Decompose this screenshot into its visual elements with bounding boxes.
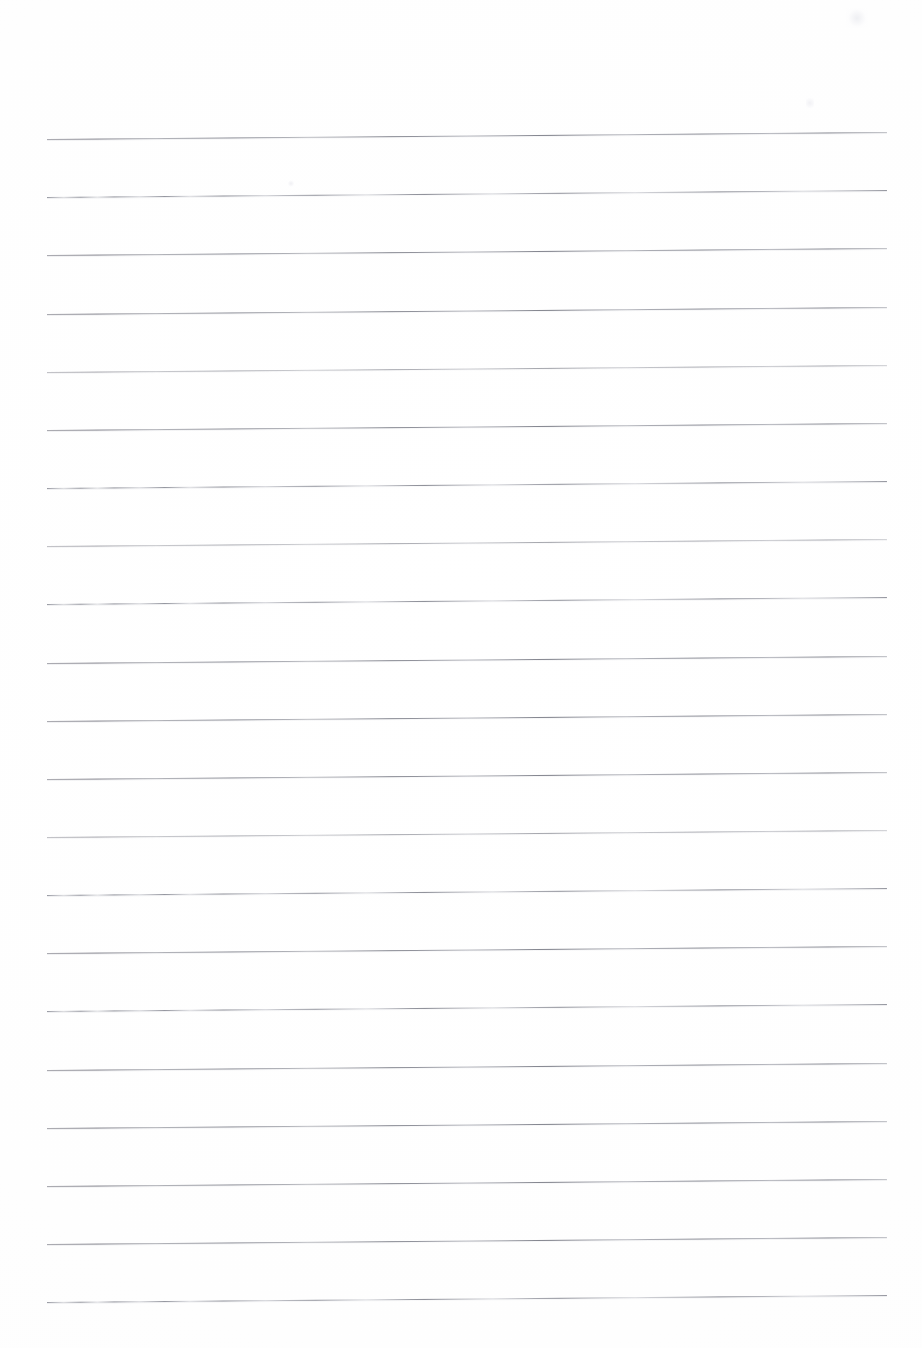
rule-line xyxy=(47,1179,887,1187)
rule-line xyxy=(47,132,887,140)
rule-line xyxy=(47,1295,887,1303)
rule-line xyxy=(47,423,887,431)
rule-line xyxy=(47,656,887,664)
ruled-lines-group xyxy=(0,0,922,1348)
rule-line xyxy=(47,597,887,605)
rule-line xyxy=(47,888,887,896)
rule-line xyxy=(47,539,887,547)
rule-line xyxy=(47,248,887,256)
rule-line xyxy=(47,1063,887,1071)
rule-line xyxy=(47,365,887,373)
rule-line xyxy=(47,1004,887,1012)
rule-line xyxy=(47,1121,887,1129)
rule-line xyxy=(47,481,887,489)
rule-line xyxy=(47,1237,887,1245)
rule-line xyxy=(47,830,887,838)
rule-line xyxy=(47,946,887,954)
scanned-page xyxy=(0,0,922,1348)
rule-line xyxy=(47,307,887,315)
rule-line xyxy=(47,772,887,780)
rule-line xyxy=(47,714,887,722)
rule-line xyxy=(47,190,887,198)
